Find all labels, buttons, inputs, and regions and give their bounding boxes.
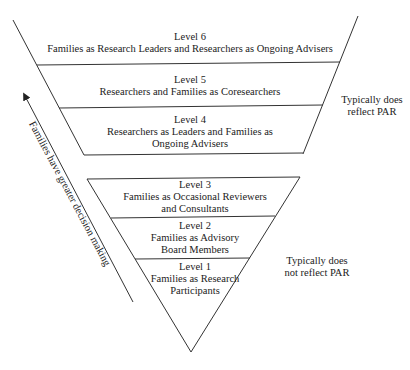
divider-level3-level2: [111, 216, 275, 218]
level-4-description-line1: Researchers as Leaders and Families as: [40, 126, 340, 138]
reflects-par-line1: Typically does: [332, 94, 410, 106]
level-2-description-line2: Board Members: [110, 244, 280, 256]
level-2-title: Level 2: [110, 220, 280, 232]
not-reflects-par-line2: not reflect PAR: [272, 267, 362, 279]
level-3-label: Level 3 Families as Occasional Reviewers…: [90, 179, 300, 215]
level-1-label: Level 1 Families as Research Participant…: [120, 261, 270, 297]
level-1-description-line1: Families as Research: [120, 273, 270, 285]
not-reflects-par-line1: Typically does: [272, 255, 362, 267]
divider-level6-level5: [37, 62, 340, 65]
level-2-label: Level 2 Families as Advisory Board Membe…: [110, 220, 280, 256]
level-5-title: Level 5: [40, 74, 340, 86]
level-6-title: Level 6: [40, 31, 340, 43]
level-3-description-line2: and Consultants: [90, 203, 300, 215]
level-5-label: Level 5 Researchers and Families as Core…: [40, 74, 340, 98]
level-1-description-line2: Participants: [120, 285, 270, 297]
not-reflects-par-label: Typically does not reflect PAR: [272, 255, 362, 279]
level-4-description-line2: Ongoing Advisers: [40, 138, 340, 150]
level-6-label: Level 6 Families as Research Leaders and…: [40, 31, 340, 55]
level-3-description-line1: Families as Occasional Reviewers: [90, 191, 300, 203]
divider-level5-level4: [59, 105, 323, 108]
divider-level2-level1: [135, 258, 250, 259]
reflects-par-line2: reflect PAR: [332, 106, 410, 118]
level-5-description: Researchers and Families as Coresearcher…: [40, 86, 340, 98]
level-2-description-line1: Families as Advisory: [110, 232, 280, 244]
level-6-description: Families as Research Leaders and Researc…: [40, 43, 340, 55]
level-3-title: Level 3: [90, 179, 300, 191]
level-4-title: Level 4: [40, 114, 340, 126]
level-4-label: Level 4 Researchers as Leaders and Famil…: [40, 114, 340, 150]
reflects-par-label: Typically does reflect PAR: [332, 94, 410, 118]
upper-funnel-bottom: [84, 153, 303, 155]
level-1-title: Level 1: [120, 261, 270, 273]
